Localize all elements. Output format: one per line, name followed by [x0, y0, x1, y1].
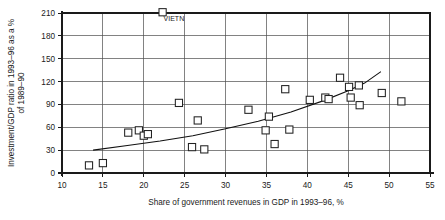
x-tick-label: 30	[221, 181, 231, 190]
y-axis-title: Investment/GDP ratio in 1993–96 as a %of…	[7, 19, 26, 167]
x-tick-label: 35	[262, 181, 272, 190]
x-tick-label: 40	[303, 181, 313, 190]
x-axis-title: Share of government revenues in GDP in 1…	[148, 198, 344, 207]
y-tick-label: 180	[41, 32, 55, 41]
data-point-marker	[85, 162, 92, 169]
trend-curve-group	[93, 72, 381, 150]
y-axis: 0306090120150180210	[41, 9, 62, 178]
data-point-marker	[201, 146, 208, 153]
data-point-marker	[286, 126, 293, 133]
plot-frame	[62, 13, 430, 173]
data-point-marker	[306, 96, 313, 103]
data-point-marker	[125, 129, 132, 136]
data-point-marker	[356, 102, 363, 109]
y-tick-label: 210	[41, 9, 55, 18]
data-point-marker	[194, 117, 201, 124]
data-point-marker	[245, 106, 252, 113]
data-point-marker	[282, 86, 289, 93]
data-point-marker	[398, 98, 405, 105]
y-tick-label: 60	[46, 123, 56, 132]
data-point-marker	[345, 83, 352, 90]
plot-grid	[62, 13, 430, 173]
y-tick-label: 30	[46, 146, 56, 155]
data-point-marker	[265, 113, 272, 120]
data-point-marker	[188, 144, 195, 151]
data-point-marker	[355, 82, 362, 89]
data-point-marker	[336, 74, 343, 81]
data-point-marker	[262, 127, 269, 134]
y-tick-label: 120	[41, 78, 55, 87]
y-tick-label: 0	[50, 169, 55, 178]
x-tick-label: 15	[98, 181, 108, 190]
data-point-marker	[325, 96, 332, 103]
y-tick-label: 90	[46, 100, 56, 109]
data-point-label: VIETN	[164, 15, 185, 22]
x-tick-label: 10	[57, 181, 67, 190]
data-point-marker	[175, 99, 182, 106]
trend-curve	[93, 72, 381, 150]
x-tick-label: 45	[344, 181, 354, 190]
chart-figure: 10152025303540455055 0306090120150180210…	[0, 0, 445, 220]
data-point-marker	[99, 160, 106, 167]
point-labels-group: VIETN	[164, 15, 185, 22]
x-tick-label: 55	[425, 181, 435, 190]
data-point-marker	[144, 131, 151, 138]
x-tick-label: 20	[139, 181, 149, 190]
data-point-marker	[271, 140, 278, 147]
y-tick-label: 150	[41, 55, 55, 64]
x-axis: 10152025303540455055	[57, 173, 435, 190]
x-tick-label: 50	[385, 181, 395, 190]
data-point-marker	[347, 94, 354, 101]
scatter-plot-svg: 10152025303540455055 0306090120150180210…	[0, 0, 445, 220]
x-tick-label: 25	[180, 181, 190, 190]
data-point-marker	[378, 89, 385, 96]
